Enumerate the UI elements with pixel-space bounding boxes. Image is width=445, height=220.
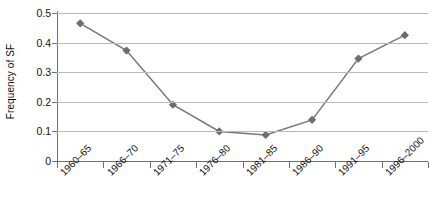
- line-chart: Frequency of SF 00.10.20.30.40.5 1960–65…: [0, 0, 445, 220]
- data-series-svg: [57, 13, 428, 161]
- y-tick-mark: [52, 131, 57, 132]
- x-tick-mark: [243, 162, 244, 168]
- x-tick-mark: [335, 162, 336, 168]
- x-tick-mark: [150, 162, 151, 168]
- y-tick-mark: [52, 102, 57, 103]
- y-axis-title-text: Frequency of SF: [6, 43, 17, 118]
- data-point-marker: [76, 19, 84, 27]
- x-tick-mark: [382, 162, 383, 168]
- y-tick-mark: [52, 43, 57, 44]
- y-tick-label: 0.5: [36, 7, 51, 19]
- data-point-marker: [401, 31, 409, 39]
- y-tick-mark: [52, 72, 57, 73]
- y-axis-title: Frequency of SF: [0, 0, 22, 162]
- x-tick-mark: [428, 162, 429, 168]
- gridline: [57, 102, 428, 103]
- x-tick-mark: [57, 162, 58, 168]
- x-tick-mark: [289, 162, 290, 168]
- y-tick-label: 0.1: [36, 125, 51, 137]
- gridline: [57, 72, 428, 73]
- y-tick-label: 0.4: [36, 37, 51, 49]
- x-tick-mark: [196, 162, 197, 168]
- y-tick-label: 0: [45, 155, 51, 167]
- y-tick-mark: [52, 13, 57, 14]
- y-tick-label: 0.2: [36, 96, 51, 108]
- gridline: [57, 43, 428, 44]
- y-tick-label: 0.3: [36, 66, 51, 78]
- plot-area: [57, 13, 428, 161]
- gridline: [57, 131, 428, 132]
- y-axis-tick-labels: 00.10.20.30.40.5: [22, 0, 55, 170]
- series-line: [80, 23, 405, 135]
- x-tick-mark: [103, 162, 104, 168]
- gridline: [57, 13, 428, 14]
